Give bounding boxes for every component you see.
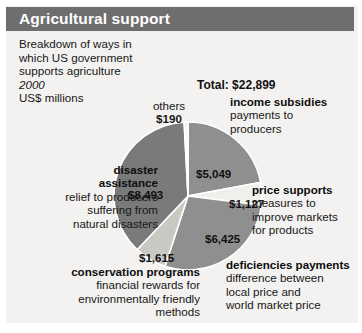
intro-line-3: supports agriculture (19, 64, 121, 77)
intro-year: 2000 (19, 78, 45, 91)
infographic-panel: Agricultural support Breakdown of ways i… (0, 0, 362, 333)
callout-others-title: others (134, 99, 204, 112)
callout-income-line-1: payments to (230, 108, 360, 121)
callout-conservation-line-1: financial rewards for (10, 278, 200, 291)
callout-price-supports: price supports measures to improve marke… (252, 183, 360, 237)
callout-disaster-title-1: disaster (8, 163, 158, 176)
total-label: Total: $22,899 (197, 78, 275, 92)
callout-income-line-2: producers (230, 122, 360, 135)
callout-conservation-line-2: environmentally friendly (10, 292, 200, 305)
callout-deficiencies-line-3: world market price (226, 298, 360, 311)
callout-others: others $190 (134, 99, 204, 126)
callout-disaster-assistance: disaster assistance relief to producers … (8, 163, 158, 230)
slice-value-income-subsidies: $5,049 (196, 168, 231, 180)
callout-deficiencies-payments: deficiencies payments difference between… (226, 258, 360, 312)
page-title: Agricultural support (19, 10, 170, 28)
callout-price-line-2: improve markets (252, 210, 360, 223)
callout-price-title: price supports (252, 183, 360, 196)
slice-value-deficiencies-payments: $6,425 (205, 233, 240, 245)
callout-price-line-3: for products (252, 223, 360, 236)
slice-value-conservation-programs: $1,615 (139, 252, 174, 264)
callout-disaster-title-2: assistance (8, 176, 158, 189)
callout-others-value: $190 (134, 112, 204, 125)
callout-income-subsidies: income subsidies payments to producers (230, 95, 360, 135)
callout-deficiencies-line-1: difference between (226, 271, 360, 284)
callout-deficiencies-line-2: local price and (226, 285, 360, 298)
intro-units: US$ millions (19, 91, 83, 104)
callout-conservation-title: conservation programs (10, 265, 200, 278)
intro-line-1: Breakdown of ways in (19, 37, 132, 50)
frame-bottom-edge (0, 323, 362, 333)
intro-text: Breakdown of ways in which US government… (19, 37, 179, 105)
callout-disaster-line-2: suffering from (8, 203, 158, 216)
callout-conservation-programs: conservation programs financial rewards … (10, 265, 200, 319)
callout-conservation-line-3: methods (10, 305, 200, 318)
callout-price-line-1: measures to (252, 196, 360, 209)
callout-disaster-line-1: relief to producers (8, 190, 158, 203)
callout-deficiencies-title: deficiencies payments (226, 258, 360, 271)
intro-line-2: which US government (19, 51, 132, 64)
callout-disaster-line-3: natural disasters (8, 217, 158, 230)
callout-income-title: income subsidies (230, 95, 360, 108)
